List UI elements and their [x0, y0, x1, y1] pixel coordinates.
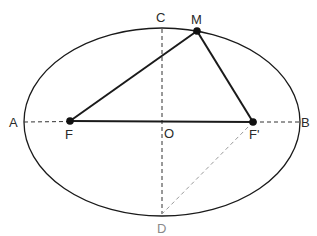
segment-F-M	[70, 31, 197, 121]
label-C: C	[156, 10, 165, 25]
label-O: O	[164, 126, 174, 141]
major-axis-left-dashed	[24, 122, 70, 123]
label-F: F	[65, 127, 73, 142]
label-M: M	[191, 12, 202, 27]
point-Fprime	[249, 118, 257, 126]
point-F	[66, 117, 74, 125]
point-M	[193, 27, 201, 35]
label-D: D	[157, 221, 166, 236]
label-Fprime: F'	[249, 127, 259, 142]
label-B: B	[301, 115, 310, 130]
ellipse-foci-diagram: A B C M F F' O D	[0, 0, 317, 236]
segment-M-Fprime	[197, 31, 253, 122]
segment-F-Fprime	[70, 121, 253, 122]
label-A: A	[9, 115, 18, 130]
